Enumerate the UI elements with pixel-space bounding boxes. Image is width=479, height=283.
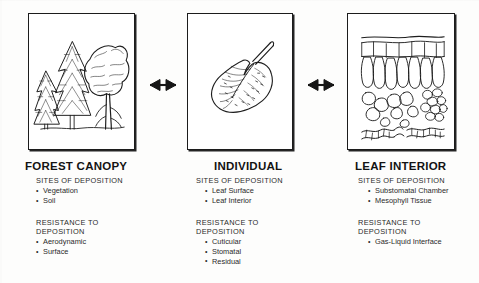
list-resistance-to-deposition: Aerodynamic Surface	[36, 237, 155, 256]
column-title-forest-canopy: FOREST CANOPY	[25, 160, 155, 172]
column-title-leaf-interior: LEAF INTERIOR	[355, 160, 479, 172]
column-forest-canopy: FOREST CANOPY SITES OF DEPOSITION Vegeta…	[25, 160, 155, 257]
column-individual: INDIVIDUAL SITES OF DEPOSITION Leaf Surf…	[196, 160, 326, 266]
list-item: Leaf Surface	[205, 186, 326, 196]
list-sites-of-deposition: Vegetation Soil	[36, 186, 155, 205]
list-item: Leaf Interior	[205, 196, 326, 206]
list-item: Cuticular	[205, 237, 326, 247]
panel-individual	[187, 13, 293, 150]
arrow-canopy-to-individual	[141, 74, 185, 96]
column-leaf-interior: LEAF INTERIOR SITES OF DEPOSITION Substo…	[355, 160, 479, 247]
list-sites-of-deposition: Leaf Surface Leaf Interior	[205, 186, 326, 205]
list-item: Substomatal Chamber	[368, 186, 479, 196]
list-item: Gas-Liquid Interface	[368, 237, 479, 247]
arrow-individual-to-leaf-interior	[299, 74, 343, 96]
column-title-individual: INDIVIDUAL	[214, 160, 326, 172]
section-heading-sites-of-deposition: SITES OF DEPOSITION	[196, 176, 326, 185]
section-heading-resistance-to-deposition: RESISTANCE TO DEPOSITION	[196, 218, 280, 237]
list-item: Vegetation	[36, 186, 155, 196]
list-item: Soil	[36, 196, 155, 206]
leaf-cross-section-illustration	[348, 14, 454, 149]
list-item: Aerodynamic	[36, 237, 155, 247]
list-item: Mesophyll Tissue	[368, 196, 479, 206]
forest-trees-illustration	[29, 14, 134, 149]
list-item: Surface	[36, 247, 155, 257]
panel-leaf-interior	[347, 13, 455, 150]
section-heading-sites-of-deposition: SITES OF DEPOSITION	[358, 176, 479, 185]
list-resistance-to-deposition: Cuticular Stomatal Residual	[205, 237, 326, 266]
list-sites-of-deposition: Substomatal Chamber Mesophyll Tissue	[368, 186, 479, 205]
section-heading-resistance-to-deposition: RESISTANCE TO DEPOSITION	[36, 218, 120, 237]
list-resistance-to-deposition: Gas-Liquid Interface	[368, 237, 479, 247]
panel-forest-canopy	[28, 13, 135, 150]
diagram-page: FOREST CANOPY SITES OF DEPOSITION Vegeta…	[0, 0, 479, 283]
list-item: Stomatal	[205, 247, 326, 257]
single-leaf-illustration	[188, 14, 292, 149]
list-item: Residual	[205, 257, 326, 267]
section-heading-sites-of-deposition: SITES OF DEPOSITION	[36, 176, 155, 185]
section-heading-resistance-to-deposition: RESISTANCE TO DEPOSITION	[358, 218, 442, 237]
